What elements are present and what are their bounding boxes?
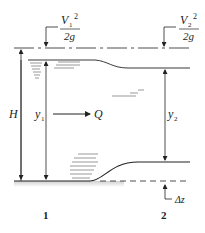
svg-text:2: 2 <box>74 12 78 21</box>
total-head-label: H <box>8 107 19 121</box>
svg-text:2: 2 <box>174 115 178 123</box>
section-2-label: 2 <box>161 209 167 221</box>
flow-rate-label: Q <box>94 107 103 121</box>
water-surface <box>28 60 190 68</box>
v2-head-pointer <box>164 27 176 46</box>
water-hatching <box>30 62 144 178</box>
depth-y2-label: y 2 <box>167 107 178 123</box>
section-1-label: 1 <box>43 209 49 221</box>
channel-bed-shading <box>14 181 124 187</box>
step-height-label: Δz <box>174 194 185 205</box>
svg-text:1: 1 <box>69 21 73 29</box>
step-height-pointer <box>165 185 172 199</box>
svg-text:2g: 2g <box>64 30 76 42</box>
svg-text:y: y <box>167 107 174 121</box>
svg-text:2: 2 <box>188 21 192 29</box>
svg-text:1: 1 <box>41 115 45 123</box>
open-channel-step-diagram: V 1 2 2g V 2 2 2g H y 1 y 2 Q Δz 1 2 <box>0 0 205 233</box>
depth-y1-label: y 1 <box>34 107 45 123</box>
svg-text:2g: 2g <box>183 30 195 42</box>
v2-velocity-head-label: V 2 2 2g <box>179 12 199 42</box>
v1-velocity-head-label: V 1 2 2g <box>60 12 80 42</box>
svg-text:2: 2 <box>193 12 197 21</box>
svg-text:y: y <box>34 107 41 121</box>
v1-head-pointer <box>46 27 58 46</box>
channel-bed <box>14 162 190 181</box>
